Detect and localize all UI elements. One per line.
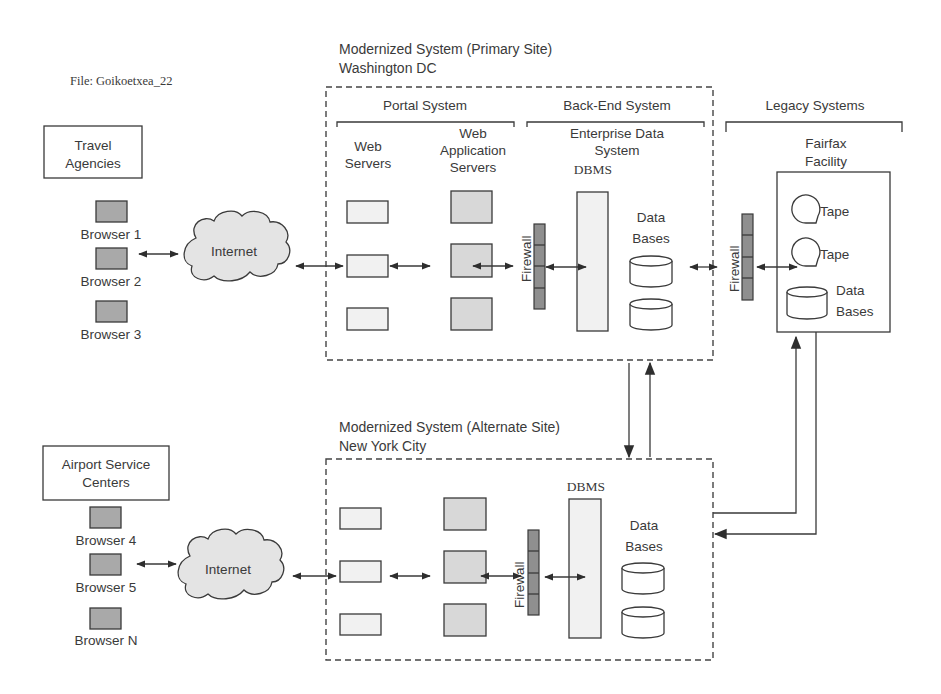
database-alternate-1 <box>622 563 664 594</box>
file-label: File: Goikoetxea_22 <box>70 74 172 88</box>
tape-1-icon <box>792 195 820 223</box>
alt-app-server-2 <box>444 551 486 583</box>
firewall-legacy: Firewall <box>727 214 753 300</box>
browser-5-icon <box>90 554 121 575</box>
alt-web-server-1 <box>340 508 381 529</box>
airport-label-1: Airport Service <box>62 457 151 472</box>
portal-system-label: Portal System <box>383 98 467 113</box>
web-server-1 <box>347 201 388 223</box>
legacy-systems: Legacy Systems Fairfax Facility Tape Tap… <box>690 98 902 332</box>
airport-label-2: Centers <box>82 475 130 490</box>
alt-data-bases-label-1: Data <box>630 518 659 533</box>
alt-web-server-2 <box>340 561 381 582</box>
dbms-alternate <box>569 499 601 638</box>
travel-agencies-label-1: Travel <box>74 138 111 153</box>
firewall-primary-label: Firewall <box>519 235 534 282</box>
firewall-legacy-label: Firewall <box>727 245 742 292</box>
web-servers-label-1: Web <box>354 139 382 154</box>
web-server-2 <box>347 255 388 277</box>
tape-2-icon <box>792 238 820 266</box>
alternate-site: Modernized System (Alternate Site) New Y… <box>326 419 713 660</box>
browser-4-label: Browser 4 <box>76 533 137 548</box>
database-primary-1 <box>630 256 672 287</box>
enterprise-data-label-1: Enterprise Data <box>570 126 664 141</box>
alt-web-server-3 <box>340 614 381 635</box>
firewall-alternate: Firewall <box>512 530 539 615</box>
dbms-label: DBMS <box>574 162 612 177</box>
primary-site: Modernized System (Primary Site) Washing… <box>326 41 713 360</box>
app-server-2 <box>451 244 492 277</box>
site-connections <box>629 332 816 534</box>
browser-1-icon <box>96 201 127 222</box>
dbms-primary <box>577 192 608 331</box>
browser-2-icon <box>96 248 127 269</box>
browser-n-label: Browser N <box>74 633 137 648</box>
app-server-3 <box>451 298 492 330</box>
browser-n-icon <box>90 608 121 629</box>
browser-2-label: Browser 2 <box>81 274 142 289</box>
primary-site-location: Washington DC <box>339 60 437 76</box>
enterprise-data-label-2: System <box>594 143 639 158</box>
tape-2-label: Tape <box>820 247 849 262</box>
architecture-diagram: File: Goikoetxea_22 Modernized System (P… <box>0 0 941 694</box>
browser-5-label: Browser 5 <box>76 580 137 595</box>
browser-3-icon <box>96 301 127 322</box>
alt-app-server-3 <box>444 604 486 636</box>
data-bases-label-1: Data <box>637 210 666 225</box>
internet-alt-label: Internet <box>205 562 251 577</box>
legacy-data-bases-label-1: Data <box>836 283 865 298</box>
travel-agencies-label-2: Agencies <box>65 156 121 171</box>
fairfax-label-2: Facility <box>805 154 847 169</box>
airport-service-centers: Airport Service Centers Browser 4 Browse… <box>43 446 336 648</box>
legacy-bracket <box>726 122 902 132</box>
alternate-site-location: New York City <box>339 438 426 454</box>
browser-3-label: Browser 3 <box>81 327 142 342</box>
legacy-systems-label: Legacy Systems <box>765 98 864 113</box>
browser-1-label: Browser 1 <box>81 227 142 242</box>
database-legacy <box>787 287 827 319</box>
data-bases-label-2: Bases <box>632 231 670 246</box>
firewall-primary: Firewall <box>519 224 545 309</box>
legacy-data-bases-label-2: Bases <box>836 304 874 319</box>
web-app-servers-label-1: Web <box>459 126 487 141</box>
firewall-alternate-label: Firewall <box>512 561 527 608</box>
travel-agencies: Travel Agencies Browser 1 Browser 2 Brow… <box>44 126 343 342</box>
primary-site-title: Modernized System (Primary Site) <box>339 41 552 57</box>
app-server-1 <box>451 191 492 223</box>
alt-app-server-1 <box>444 498 486 530</box>
backend-system-label: Back-End System <box>563 98 670 113</box>
web-app-servers-label-2: Application <box>440 143 506 158</box>
internet-label: Internet <box>211 244 257 259</box>
portal-system-bracket <box>337 122 514 127</box>
web-servers-label-2: Servers <box>345 156 392 171</box>
airport-service-box <box>43 446 169 500</box>
fairfax-label-1: Fairfax <box>805 136 847 151</box>
web-server-3 <box>347 308 388 330</box>
tape-1-label: Tape <box>820 204 849 219</box>
alt-dbms-label: DBMS <box>567 479 605 494</box>
database-alternate-2 <box>622 607 664 638</box>
alt-data-bases-label-2: Bases <box>625 539 663 554</box>
alternate-site-title: Modernized System (Alternate Site) <box>339 419 560 435</box>
browser-4-icon <box>90 507 121 528</box>
web-app-servers-label-3: Servers <box>450 160 497 175</box>
database-primary-2 <box>630 299 672 330</box>
